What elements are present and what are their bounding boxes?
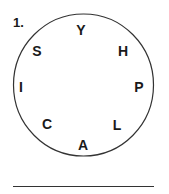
letter-i: I — [19, 80, 23, 94]
letter-y: Y — [76, 23, 85, 37]
letter-h: H — [118, 44, 128, 58]
letter-a: A — [78, 138, 88, 152]
letter-l: L — [113, 118, 122, 132]
letter-p: P — [134, 80, 143, 94]
answer-line[interactable] — [13, 186, 154, 187]
letter-s: S — [32, 44, 41, 58]
letter-c: C — [42, 117, 52, 131]
